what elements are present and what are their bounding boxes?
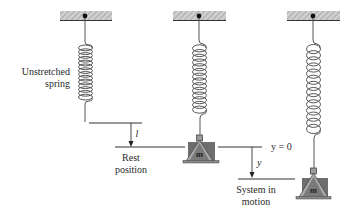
mass-block: m [183,135,219,163]
mass-block: m [296,168,331,199]
spring-coil [193,18,207,135]
spring-coil [307,18,321,168]
label-l: l [136,128,139,139]
ceiling-support [173,11,226,21]
label-motion-1: System in [236,184,276,195]
label-unstretched-2: spring [45,78,70,89]
label-rest-2: position [115,164,147,175]
label-rest-1: Rest [122,152,140,163]
label-unstretched-1: Unstretched [22,66,70,77]
ceiling-support [287,11,340,21]
mass-label: m [310,185,317,195]
mass-label: m [196,149,203,159]
ceiling-support [60,11,112,21]
panel-unstretched: Unstretched spring [22,11,142,123]
panel-motion: m System in motion [236,11,340,207]
displacement-l-arrow: l [129,123,139,147]
label-y-equals-0: y = 0 [271,141,292,152]
spring-coil [79,18,93,122]
label-y: y [256,157,262,168]
spring-mass-diagram: Unstretched spring l m [0,0,353,217]
panel-rest: m Rest position [115,11,262,175]
label-motion-2: motion [242,196,270,207]
